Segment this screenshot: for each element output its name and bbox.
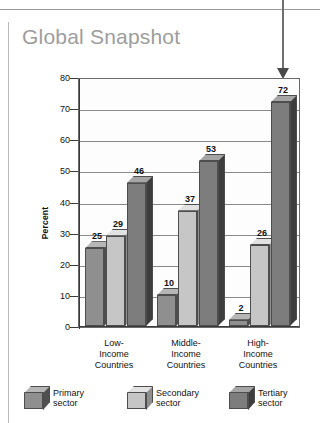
y-axis-tick-label: 30 <box>46 229 70 239</box>
bar-value-label: 25 <box>80 231 114 241</box>
bar-top-highlight <box>199 154 225 161</box>
y-axis-tick-mark <box>70 327 78 328</box>
y-axis-tick-mark <box>70 234 78 235</box>
y-axis-tick-mark <box>70 296 78 297</box>
y-axis-line <box>79 79 80 329</box>
y-axis-tick-mark <box>70 203 78 204</box>
y-axis-tick-mark <box>70 78 78 79</box>
legend-label-line1: Secondary <box>156 388 199 399</box>
legend-label-line2: sector <box>53 398 84 409</box>
y-axis-tick-label: 10 <box>46 291 70 301</box>
callout-arrow-line <box>282 0 284 72</box>
gridline <box>79 110 299 111</box>
category-label-line: High- <box>215 338 301 349</box>
legend-label-line1: Primary <box>53 388 84 399</box>
y-axis-tick-label: 20 <box>46 260 70 270</box>
category-label-line: Income <box>215 349 301 360</box>
bar-value-label: 72 <box>266 85 300 95</box>
legend-cube-front-face <box>24 392 43 409</box>
bar-value-label: 2 <box>224 303 258 313</box>
y-axis-tick-mark <box>70 265 78 266</box>
page-top-rule <box>0 9 320 10</box>
bar-side-face <box>218 154 225 326</box>
y-axis-tick-label: 70 <box>46 104 70 114</box>
bar-front-face <box>250 245 269 326</box>
legend-label: Tertiarysector <box>258 388 288 409</box>
bar-value-label: 37 <box>173 194 207 204</box>
bar <box>199 154 225 326</box>
y-axis-tick-mark <box>70 109 78 110</box>
x-axis-category-label: High-IncomeCountries <box>215 338 301 371</box>
bar-top-highlight <box>271 95 297 102</box>
gridline <box>79 141 299 142</box>
legend-label-line1: Tertiary <box>258 388 288 399</box>
gridline <box>79 172 299 173</box>
legend-cube-front-face <box>229 392 248 409</box>
y-axis-tick-label: 40 <box>46 198 70 208</box>
y-axis-tick-label: 0 <box>46 322 70 332</box>
bar-front-face <box>127 183 146 326</box>
legend-swatch-cube-icon <box>229 386 255 410</box>
bar-front-face <box>199 161 218 326</box>
y-axis-tick-label: 60 <box>46 135 70 145</box>
bar-top-highlight <box>127 176 153 183</box>
category-label-line: Countries <box>215 360 301 371</box>
y-axis-tick-label: 80 <box>46 73 70 83</box>
bar-front-face <box>85 248 104 326</box>
page-title: Global Snapshot <box>22 25 180 49</box>
bar-value-label: 53 <box>194 144 228 154</box>
bar-value-label: 10 <box>152 278 186 288</box>
bar-side-face <box>146 176 153 326</box>
bar-front-face <box>157 295 176 326</box>
bar-front-face <box>178 211 197 326</box>
legend-swatch-cube-icon <box>24 386 50 410</box>
bar-side-face <box>290 95 297 326</box>
chart-legend: PrimarysectorSecondarysectorTertiarysect… <box>24 386 300 418</box>
legend-item[interactable]: Tertiarysector <box>229 386 288 410</box>
bar-front-face <box>106 236 125 326</box>
y-axis-tick-label: 50 <box>46 166 70 176</box>
y-axis-tick-mark <box>70 171 78 172</box>
legend-cube-front-face <box>127 392 146 409</box>
legend-label-line2: sector <box>156 398 199 409</box>
y-axis-tick-mark <box>70 140 78 141</box>
bar <box>127 176 153 326</box>
legend-label: Secondarysector <box>156 388 199 409</box>
bar-value-label: 26 <box>245 228 279 238</box>
page-left-rule <box>8 22 9 423</box>
bar-value-label: 46 <box>122 166 156 176</box>
legend-swatch-cube-icon <box>127 386 153 410</box>
legend-item[interactable]: Primarysector <box>24 386 84 410</box>
legend-item[interactable]: Secondarysector <box>127 386 199 410</box>
bar-value-label: 29 <box>101 219 135 229</box>
bar <box>271 95 297 326</box>
x-axis-line <box>79 326 299 327</box>
legend-label-line2: sector <box>258 398 288 409</box>
legend-label: Primarysector <box>53 388 84 409</box>
bar-front-face <box>271 102 290 326</box>
